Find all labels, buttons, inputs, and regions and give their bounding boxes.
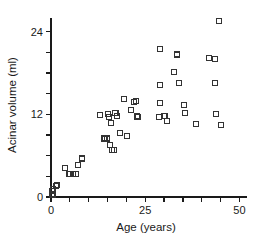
x-tick-label: 50: [233, 204, 245, 216]
data-point: [98, 113, 103, 118]
data-point: [80, 156, 85, 161]
data-point: [177, 80, 182, 85]
x-tick-label: 25: [139, 204, 151, 216]
data-point: [118, 130, 123, 135]
data-point: [125, 133, 130, 138]
data-point: [212, 56, 217, 61]
scatter-plot-figure: 01224 02550 Age (years) Acinar volume (m…: [0, 0, 264, 239]
data-point: [157, 46, 162, 51]
data-point: [121, 97, 126, 102]
data-point: [156, 115, 161, 120]
x-tick-label: 0: [48, 204, 54, 216]
data-point: [157, 82, 162, 87]
data-point: [158, 100, 163, 105]
data-point: [162, 113, 167, 118]
y-axis-label: Acinar volume (ml): [6, 57, 18, 153]
data-point: [182, 103, 187, 108]
data-point: [67, 171, 72, 176]
data-point: [75, 162, 80, 167]
x-axis-label: Age (years): [116, 221, 176, 233]
data-point: [214, 111, 219, 116]
data-point: [218, 123, 223, 128]
data-point: [213, 81, 218, 86]
data-point: [216, 19, 221, 24]
data-point: [107, 142, 112, 147]
data-point: [207, 55, 212, 60]
data-point: [175, 52, 180, 57]
data-point: [165, 118, 170, 123]
y-tick-label: 12: [31, 108, 43, 120]
data-point: [183, 111, 188, 116]
chart-canvas: 01224 02550 Age (years) Acinar volume (m…: [0, 0, 264, 239]
y-axis: 01224: [31, 18, 51, 203]
y-tick-label: 0: [37, 191, 43, 203]
data-point: [129, 107, 134, 112]
data-point: [62, 166, 67, 171]
data-point: [194, 122, 199, 127]
data-point: [108, 121, 113, 126]
y-tick-label: 24: [31, 26, 43, 38]
data-point-series: [49, 19, 223, 197]
data-point: [171, 69, 176, 74]
x-axis: 02550: [48, 197, 247, 216]
